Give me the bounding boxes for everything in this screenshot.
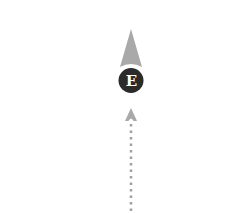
marker-label: E [119, 68, 144, 93]
heading-arrow-icon [120, 29, 142, 67]
trail-arrow-icon [125, 108, 137, 121]
map-canvas[interactable] [0, 0, 237, 213]
